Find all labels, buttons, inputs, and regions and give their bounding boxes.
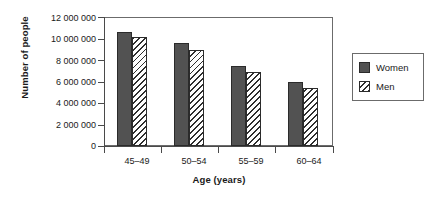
x-axis-title: Age (years) (104, 174, 334, 185)
x-tick-label: 55–59 (221, 156, 281, 166)
bar-women-55–59 (231, 66, 246, 146)
legend-item-men: Men (359, 80, 394, 93)
chart-screenshot: Number of people 12 000 000 10 000 000 8… (0, 0, 434, 204)
x-tick-label: 45–49 (107, 156, 167, 166)
bar-women-60–64 (288, 82, 303, 146)
chart-legend: Women Men (352, 53, 424, 101)
bar-men-55–59 (246, 72, 261, 146)
bar-men-50–54 (189, 50, 204, 146)
x-axis-tick-labels: 45–49 50–54 55–59 60–64 (104, 156, 334, 170)
legend-label: Men (376, 81, 394, 92)
bar-women-45–49 (117, 32, 132, 146)
legend-swatch-solid-icon (359, 62, 370, 73)
legend-label: Women (376, 62, 409, 73)
bar-women-50–54 (174, 43, 189, 146)
bar-men-60–64 (303, 88, 318, 146)
x-tick-label: 50–54 (164, 156, 224, 166)
legend-swatch-hatch-icon (359, 81, 370, 92)
legend-item-women: Women (359, 61, 409, 74)
x-tick-label: 60–64 (279, 156, 339, 166)
bar-men-45–49 (132, 37, 147, 146)
